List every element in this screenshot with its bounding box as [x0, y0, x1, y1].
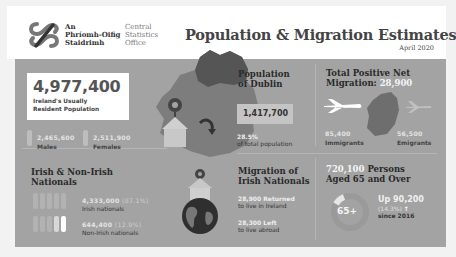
irish-migration-title: Migration of Irish Nationals [238, 167, 309, 186]
page-subtitle: April 2020 [399, 44, 434, 52]
non-irish-nationals-label: Non-Irish nationals [82, 229, 138, 237]
person-icon [54, 216, 59, 232]
returned-value: 28,900 Returned [238, 195, 295, 202]
immigrants-value: 85,400 [325, 130, 351, 137]
emigrants-label: Emigrants [397, 139, 431, 146]
aged65-up-pct: (14.3%) ↑ [378, 205, 409, 212]
irish-nationals-label: Irish nationals [82, 205, 124, 213]
males-label: Males [37, 143, 57, 150]
cso-logo-icon [27, 20, 61, 50]
person-icon [61, 193, 66, 209]
dublin-percent: 28.5% [237, 133, 258, 140]
aged65-up-label: Up 90,200 [378, 195, 424, 204]
returned-label: to live in Ireland [238, 202, 287, 210]
page-title: Population & Migration Estimates [185, 26, 456, 43]
plane-icon [322, 99, 362, 113]
aged65-value: 720,100 [326, 164, 364, 174]
male-figure-icon [27, 130, 32, 146]
left-value: 28,300 Left [238, 219, 277, 226]
left-label: to live abroad [238, 226, 279, 234]
logo-english-text: Central Statistics Office [125, 23, 158, 47]
plane-outgoing-icon [404, 101, 432, 113]
person-icon [54, 193, 59, 209]
person-icon [47, 193, 52, 209]
females-value: 2,511,900 [93, 134, 131, 141]
non-irish-nationals-value: 644,400 (12.9%) [82, 221, 141, 228]
divider [315, 158, 316, 240]
person-icon [40, 193, 45, 209]
males-value: 2,465,600 [37, 134, 75, 141]
dublin-value: 1,417,700 [243, 109, 288, 118]
emigrants-value: 56,500 [397, 130, 423, 137]
person-icon [33, 193, 38, 209]
logo-irish-text: An Phríomh-Oifig Staidrimh [65, 23, 121, 47]
ireland-small-map-icon [365, 90, 401, 138]
person-highlight-icon [61, 216, 66, 232]
nationals-title: Irish & Non-Irish Nationals [31, 168, 113, 187]
up-arrow-icon: ↑ [404, 205, 409, 212]
irish-nationals-value: 4,333,000 (87.1%) [82, 197, 149, 204]
globe-home-icon [178, 168, 222, 234]
net-migration-title: Total Positive Net Migration: 28,900 [326, 69, 412, 88]
person-icon [33, 216, 38, 232]
immigrants-label: Immigrants [325, 139, 364, 146]
aged65-badge: 65+ [337, 206, 357, 216]
dublin-value-box: 1,417,700 [237, 104, 293, 124]
net-migration-value: 28,900 [380, 78, 413, 88]
aged65-title: 720,100 Persons Aged 65 and Over [326, 165, 410, 184]
females-label: Females [93, 143, 121, 150]
divider [315, 64, 316, 146]
female-figure-icon [83, 130, 88, 146]
infographic: An Phríomh-Oifig Staidrimh Central Stati… [0, 0, 456, 257]
aged65-since: since 2016 [378, 212, 414, 220]
population-card: 4,977,400 Ireland's Usually Resident Pop… [27, 73, 129, 120]
population-value: 4,977,400 [33, 77, 120, 96]
population-label: Ireland's Usually Resident Population [33, 97, 99, 113]
dublin-title: Population of Dublin [238, 70, 290, 89]
person-icon [47, 216, 52, 232]
dublin-percent-label: of total population [237, 140, 292, 148]
person-icon [40, 216, 45, 232]
